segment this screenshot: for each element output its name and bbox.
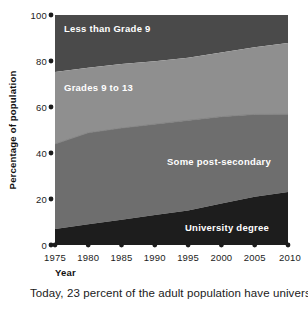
band-label-less-than-grade-9: Less than Grade 9	[64, 23, 151, 34]
x-tick-label-1990: 1990	[144, 252, 166, 263]
y-tick-label-80: 80	[36, 56, 47, 67]
x-axis: 1975 1980 1985 1990 1995 2000 2005 2010 …	[44, 243, 301, 278]
x-tick-mark-1985	[119, 243, 124, 248]
y-tick-mark-80	[49, 59, 54, 64]
band-label-university-degree: University degree	[185, 222, 269, 233]
y-tick-mark-40	[49, 151, 54, 156]
x-tick-mark-1990	[152, 243, 157, 248]
x-tick-label-1980: 1980	[77, 252, 99, 263]
stacked-area-chart: Less than Grade 9 Grades 9 to 13 Some po…	[0, 0, 308, 311]
x-tick-mark-1975	[53, 243, 58, 248]
y-tick-label-40: 40	[36, 148, 47, 159]
y-axis-title: Percentage of population	[7, 71, 18, 190]
x-tick-mark-2005	[252, 243, 257, 248]
y-tick-mark-100	[49, 13, 54, 18]
y-tick-label-60: 60	[36, 102, 47, 113]
y-tick-mark-20	[49, 197, 54, 202]
figure-container: Less than Grade 9 Grades 9 to 13 Some po…	[0, 0, 308, 311]
y-tick-label-0: 0	[42, 240, 47, 251]
figure-caption: Today, 23 percent of the adult populatio…	[30, 286, 306, 301]
x-tick-mark-2010	[286, 243, 291, 248]
x-tick-label-2005: 2005	[244, 252, 266, 263]
x-tick-label-1975: 1975	[44, 252, 66, 263]
y-tick-label-20: 20	[36, 194, 47, 205]
x-axis-title: Year	[55, 267, 76, 278]
x-tick-label-2000: 2000	[210, 252, 232, 263]
x-tick-label-1985: 1985	[111, 252, 133, 263]
y-axis: 100 80 60 40 20 0 Percentage of populati…	[7, 10, 53, 251]
y-tick-mark-60	[49, 105, 54, 110]
band-label-some-post-secondary: Some post-secondary	[167, 156, 271, 167]
x-tick-mark-1995	[186, 243, 191, 248]
y-tick-label-100: 100	[31, 10, 47, 21]
x-tick-label-2010: 2010	[279, 252, 301, 263]
x-tick-label-1995: 1995	[177, 252, 199, 263]
band-label-grades-9-to-13: Grades 9 to 13	[64, 82, 133, 93]
x-tick-mark-1980	[86, 243, 91, 248]
x-tick-mark-2000	[219, 243, 224, 248]
